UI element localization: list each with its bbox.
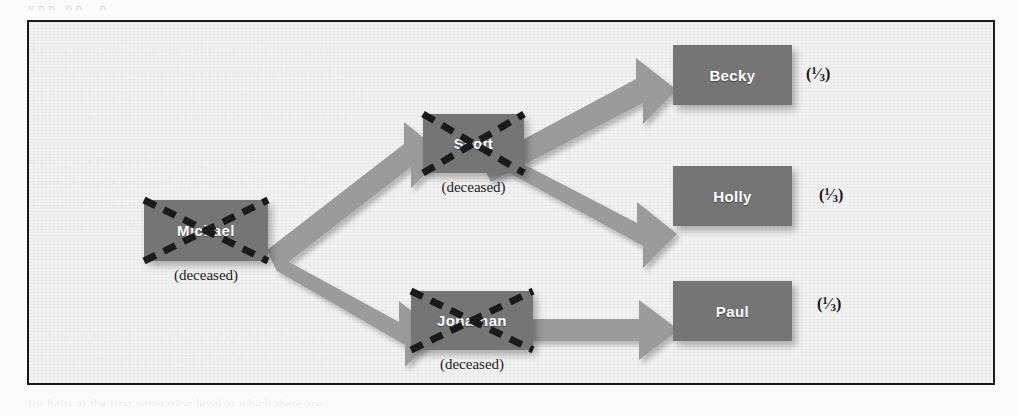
diagram-canvas: Michael (deceased) Scott (deceased) Jona… [29,22,993,383]
share-paul-denominator: 3 [831,301,837,313]
share-holly-denominator: 3 [833,192,839,204]
node-paul-label: Paul [716,303,749,320]
deceased-strike-icon [405,285,539,356]
node-holly[interactable]: Holly [673,166,792,226]
node-scott-deceased-label: (deceased) [413,179,534,196]
node-scott[interactable]: Scott [423,114,524,173]
edge-michael-scott [267,122,445,271]
deceased-strike-icon [138,194,274,267]
share-holly: (1⁄3) [819,185,843,204]
node-michael-label: Michael [177,222,235,239]
node-jonathan-deceased-label: (deceased) [411,356,533,373]
ghost-line-top: y p p , p p , , p , [28,0,993,10]
node-michael-deceased-label: (deceased) [144,267,268,284]
share-becky: (1⁄3) [806,64,830,83]
share-becky-denominator: 3 [820,71,826,83]
node-holly-label: Holly [713,188,752,205]
node-jonathan[interactable]: Jonathan [411,291,533,350]
node-scott-label: Scott [454,135,494,152]
node-becky-label: Becky [709,67,755,84]
node-jonathan-label: Jonathan [437,312,507,329]
node-becky[interactable]: Becky [673,45,792,105]
ghost-line: for heirs at the first generation level … [28,396,993,406]
share-paul: (1⁄3) [817,294,841,313]
diagram-frame: Michael (deceased) Scott (deceased) Jona… [27,20,995,385]
node-paul[interactable]: Paul [673,281,792,341]
deceased-strike-icon [417,108,530,179]
node-michael[interactable]: Michael [144,200,268,261]
